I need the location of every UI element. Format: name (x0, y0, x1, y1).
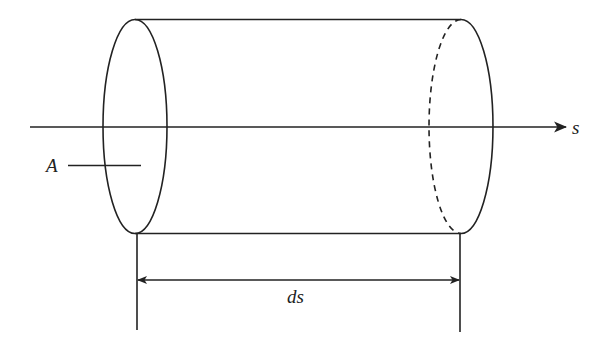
axis-label: s (572, 117, 579, 138)
area-label: A (44, 155, 58, 176)
length-label: ds (287, 286, 304, 307)
cylinder-element-diagram: A s ds (0, 0, 606, 346)
